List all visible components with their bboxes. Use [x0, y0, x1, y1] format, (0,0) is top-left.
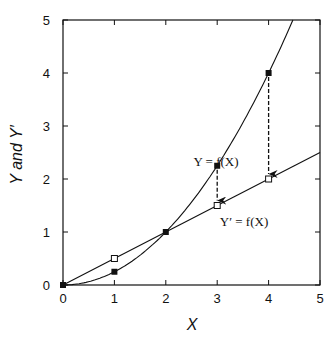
y-tick-label: 5	[43, 13, 50, 28]
y-tick-label: 0	[43, 278, 50, 293]
x-tick-label: 4	[265, 291, 272, 306]
filled-square-marker	[60, 282, 66, 288]
tick-labels: 012345012345	[43, 13, 324, 306]
curve-label: Y = f(X)	[193, 154, 238, 169]
y-axis-label: Y and Y′	[8, 124, 25, 184]
open-square-marker	[111, 256, 117, 262]
y-tick-label: 4	[43, 66, 50, 81]
x-tick-label: 3	[214, 291, 221, 306]
series-group	[60, 20, 320, 288]
curve-y	[63, 20, 293, 285]
plot-frame	[63, 20, 320, 285]
x-tick-label: 0	[59, 291, 66, 306]
filled-square-marker	[111, 269, 117, 275]
x-tick-label: 2	[162, 291, 169, 306]
line-label: Y′ = f(X)	[220, 214, 268, 229]
x-tick-label: 1	[111, 291, 118, 306]
filled-square-marker	[266, 70, 272, 76]
y-tick-label: 3	[43, 119, 50, 134]
line-y-prime	[63, 153, 320, 286]
filled-square-marker	[163, 229, 169, 235]
y-tick-label: 2	[43, 172, 50, 187]
open-square-marker	[266, 176, 272, 182]
open-square-marker	[214, 203, 220, 209]
y-tick-label: 1	[43, 225, 50, 240]
x-axis-label: X	[186, 316, 199, 333]
axis-ticks	[63, 20, 320, 285]
x-tick-label: 5	[316, 291, 323, 306]
chart: 012345012345 X Y and Y′ Y = f(X) Y′ = f(…	[0, 0, 336, 339]
